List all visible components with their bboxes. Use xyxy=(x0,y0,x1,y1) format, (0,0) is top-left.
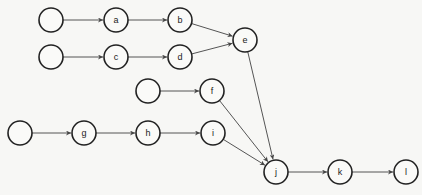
node-f: f xyxy=(200,79,224,103)
node-a: a xyxy=(104,8,128,32)
node-e: e xyxy=(233,28,257,52)
node-circle xyxy=(136,79,160,103)
node-label: i xyxy=(212,128,214,138)
node-label: d xyxy=(177,52,182,62)
node-c: c xyxy=(104,45,128,69)
node-circle xyxy=(39,45,63,69)
edge-i-to-j xyxy=(223,139,265,165)
edge-e-to-j xyxy=(248,52,273,160)
node-l: l xyxy=(394,160,418,184)
node-i: i xyxy=(201,121,225,145)
node-label: g xyxy=(81,128,86,138)
node-d: d xyxy=(168,45,192,69)
node-label: b xyxy=(177,15,182,25)
node-label: h xyxy=(145,128,150,138)
node-h: h xyxy=(136,121,160,145)
node-label: j xyxy=(274,167,277,177)
node-circle xyxy=(39,8,63,32)
node-g: g xyxy=(72,121,96,145)
node-label: c xyxy=(114,52,119,62)
edge-d-to-e xyxy=(192,43,233,54)
edge-b-to-e xyxy=(191,24,232,37)
edge-f-to-j xyxy=(219,100,268,161)
node-k: k xyxy=(328,160,352,184)
node-label: l xyxy=(405,167,407,177)
node-label: e xyxy=(242,35,247,45)
node-s4 xyxy=(8,121,32,145)
node-b: b xyxy=(168,8,192,32)
node-label: k xyxy=(338,167,343,177)
node-j: j xyxy=(264,160,288,184)
node-s2 xyxy=(39,45,63,69)
nodes-layer: abcdefghijkl xyxy=(8,8,418,184)
node-s1 xyxy=(39,8,63,32)
node-s3 xyxy=(136,79,160,103)
node-circle xyxy=(8,121,32,145)
directed-graph: abcdefghijkl xyxy=(0,0,422,195)
node-label: a xyxy=(113,15,118,25)
